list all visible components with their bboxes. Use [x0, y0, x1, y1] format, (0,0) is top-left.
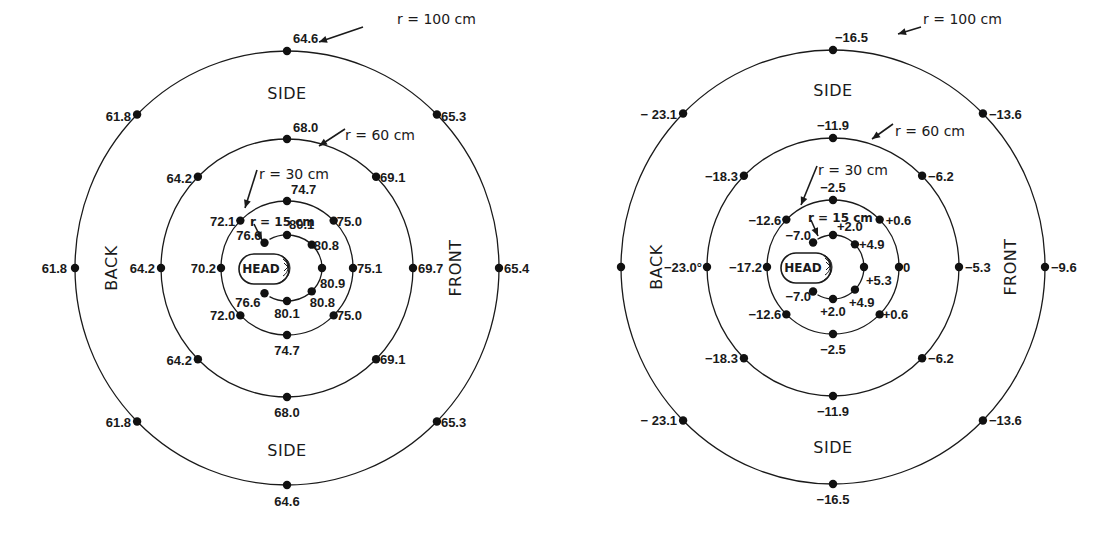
measurement-point — [782, 310, 790, 318]
measurement-value: 65.3 — [441, 415, 466, 430]
measurement-value: 64.2 — [167, 353, 192, 368]
measurement-point — [236, 216, 244, 224]
measurement-value: 61.8 — [106, 415, 131, 430]
measurement-point — [283, 197, 291, 205]
front-label: FRONT — [446, 239, 465, 296]
measurement-value: 75.0 — [337, 214, 362, 229]
measurement-point — [194, 173, 202, 181]
measurement-point — [349, 264, 357, 272]
measurement-value: −2.5 — [820, 180, 846, 195]
measurement-value: 61.8 — [106, 109, 131, 124]
measurement-value: −23.0° — [664, 260, 702, 275]
measurement-value: 64.2 — [130, 261, 155, 276]
side-top-label: SIDE — [267, 84, 306, 103]
measurement-value: 64.6 — [274, 494, 299, 509]
measurement-point — [194, 355, 202, 363]
measurement-value: −5.3 — [965, 260, 991, 275]
measurement-value: 70.2 — [191, 261, 216, 276]
head-label: HEAD — [242, 262, 280, 276]
measurement-value: 64.2 — [167, 171, 192, 186]
measurement-point — [283, 297, 291, 305]
measurement-point — [372, 173, 380, 181]
measurement-point — [955, 263, 963, 271]
measurement-value: 69.1 — [380, 170, 405, 185]
left-polar-diagram: SIDE SIDE BACK FRONT r = 100 cm64.665.36… — [42, 11, 530, 509]
measurement-value: 76.6 — [236, 228, 261, 243]
measurement-point — [283, 47, 291, 55]
measurement-value: 80.9 — [320, 276, 345, 291]
measurement-value: −6.2 — [928, 169, 954, 184]
measurement-point — [829, 46, 837, 54]
measurement-point — [372, 355, 380, 363]
measurement-value: 72.1 — [210, 214, 235, 229]
measurement-point — [217, 264, 225, 272]
measurement-value: 69.7 — [418, 261, 443, 276]
measurement-value: −7.0 — [785, 228, 811, 243]
radius-label: r = 30 cm — [818, 162, 888, 178]
measurement-point — [409, 264, 417, 272]
arrowhead-icon — [319, 36, 328, 43]
measurement-value: 65.4 — [504, 261, 530, 276]
measurement-value: −16.5 — [817, 492, 850, 507]
measurement-value: +2.0 — [820, 304, 846, 319]
measurement-value: −2.5 — [820, 342, 846, 357]
measurement-value: −11.9 — [817, 404, 849, 419]
measurement-point — [71, 264, 79, 272]
measurement-point — [703, 263, 711, 271]
measurement-value: 69.1 — [380, 352, 405, 367]
measurement-value: +0.6 — [883, 307, 909, 322]
measurement-point — [829, 392, 837, 400]
measurement-value: −18.3 — [705, 169, 738, 184]
measurement-point — [495, 264, 503, 272]
right-polar-diagram: SIDE SIDE BACK FRONT r = 100 cm−16.5−13.… — [617, 11, 1077, 507]
measurement-value: −18.3 — [705, 351, 738, 366]
polar-dose-diagrams: SIDE SIDE BACK FRONT r = 100 cm64.665.36… — [0, 0, 1112, 535]
back-label: BACK — [102, 245, 121, 290]
measurement-value: 75.0 — [337, 308, 362, 323]
measurement-point — [260, 239, 268, 247]
measurement-point — [851, 285, 859, 293]
measurement-point — [283, 135, 291, 143]
measurement-point — [740, 172, 748, 180]
measurement-value: −6.2 — [928, 351, 954, 366]
measurement-value: +4.9 — [849, 295, 875, 310]
measurement-value: 64.6 — [293, 31, 318, 46]
measurement-value: 80.8 — [314, 238, 339, 253]
arrowhead-icon — [898, 28, 907, 35]
measurement-value: −12.6 — [748, 307, 781, 322]
measurement-value: −11.9 — [817, 118, 849, 133]
measurement-value: 80.1 — [289, 217, 314, 232]
measurement-value: −17.2 — [729, 260, 762, 275]
head-label: HEAD — [784, 261, 822, 275]
measurement-point — [740, 354, 748, 362]
measurement-point — [875, 215, 883, 223]
arrowhead-icon — [872, 132, 881, 139]
measurement-point — [283, 393, 291, 401]
measurement-value: 80.1 — [274, 306, 299, 321]
side-bottom-label: SIDE — [267, 441, 306, 460]
measurement-point — [260, 289, 268, 297]
measurement-value: − 23.1 — [641, 107, 678, 122]
measurement-value: 68.0 — [274, 405, 299, 420]
measurement-value: −13.6 — [989, 413, 1022, 428]
radius-label: r = 100 cm — [397, 11, 476, 27]
measurement-point — [829, 295, 837, 303]
measurement-value: −13.6 — [989, 107, 1022, 122]
head-figure: HEAD — [781, 253, 832, 283]
measurement-value: +0.6 — [886, 213, 912, 228]
measurement-value: − 23.1 — [641, 413, 678, 428]
measurement-value: +4.9 — [859, 237, 885, 252]
radius-label: r = 60 cm — [895, 123, 965, 139]
measurement-point — [918, 172, 926, 180]
measurement-point — [133, 417, 141, 425]
measurement-value: −9.6 — [1051, 260, 1077, 275]
radius-label: r = 100 cm — [923, 11, 1002, 27]
measurement-point — [283, 231, 291, 239]
head-figure: HEAD — [239, 254, 290, 284]
measurement-value: 65.3 — [441, 109, 466, 124]
measurement-value: 72.0 — [210, 308, 235, 323]
measurement-point — [918, 354, 926, 362]
measurement-point — [763, 263, 771, 271]
measurement-point — [283, 331, 291, 339]
measurement-value: 74.7 — [274, 343, 299, 358]
